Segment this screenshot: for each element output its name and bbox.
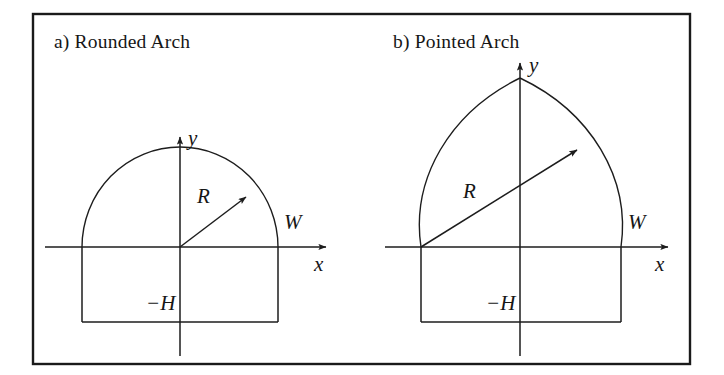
pointed-arch-depth-label: −H xyxy=(486,291,517,315)
figure-canvas: a) Rounded Arch y x R W −H b) Pointed Ar… xyxy=(0,0,724,375)
panel-a-title: a) Rounded Arch xyxy=(54,31,190,53)
rounded-arch-depth-label: −H xyxy=(146,291,177,315)
pointed-arch-radius-label: R xyxy=(462,179,476,203)
rounded-arch-x-label: x xyxy=(313,252,324,276)
pointed-arch-x-label: x xyxy=(654,252,665,276)
pointed-arch-width-label: W xyxy=(628,210,648,234)
rounded-arch-radius-label: R xyxy=(196,184,210,208)
rounded-arch-width-label: W xyxy=(284,210,304,234)
arch-geometry-figure: a) Rounded Arch y x R W −H b) Pointed Ar… xyxy=(0,0,724,375)
outer-frame xyxy=(33,14,690,364)
panel-b-title: b) Pointed Arch xyxy=(393,31,520,53)
pointed-arch-y-label: y xyxy=(527,53,539,77)
rounded-arch-y-label: y xyxy=(186,126,198,150)
